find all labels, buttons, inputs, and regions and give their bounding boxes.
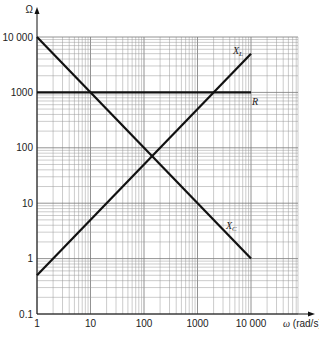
y-axis-arrow-icon [35,7,40,14]
impedance-frequency-chart: 0.1110100100010 000110100100010 000Ωω (r… [0,0,319,340]
label-xl: XL [232,45,243,58]
label-xc: XC [225,220,237,233]
x-tick-label: 100 [136,318,153,329]
y-tick-label: 10 [22,198,34,209]
x-tick-label: 1 [34,318,40,329]
y-tick-label: 1 [27,253,33,264]
y-tick-label: 100 [16,142,33,153]
y-unit-label: Ω [26,4,34,15]
y-tick-label: 0.1 [19,309,33,320]
x-unit-label: ω (rad/s) [283,318,319,329]
x-axis-arrow-icon [308,312,315,317]
x-tick-label: 10 [85,318,97,329]
y-tick-label: 10 000 [2,32,33,43]
y-tick-label: 1000 [11,87,34,98]
x-tick-label: 10 000 [236,318,267,329]
x-tick-label: 1000 [186,318,209,329]
axes [35,7,316,317]
label-r: R [251,96,258,107]
